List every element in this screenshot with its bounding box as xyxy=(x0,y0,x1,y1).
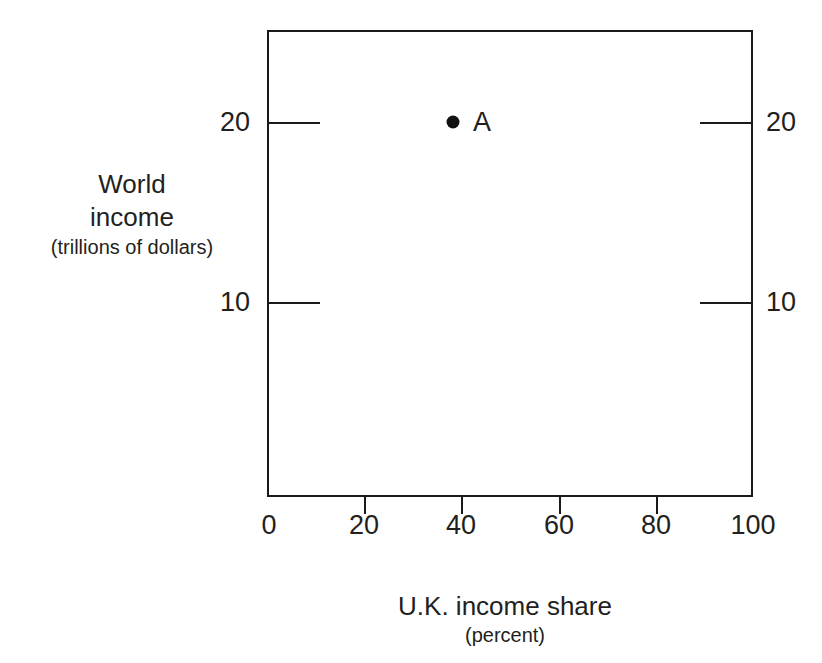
x-tick-label-100: 100 xyxy=(730,512,775,539)
data-point-a-label: A xyxy=(473,109,491,136)
y-tick-mark-left-10 xyxy=(267,302,320,304)
y-tick-label-left-10: 10 xyxy=(172,289,250,316)
chart-figure: 20 10 20 10 0 20 40 60 80 100 World inco… xyxy=(0,0,822,663)
y-axis-title-line1: World xyxy=(14,168,250,201)
x-axis-title: U.K. income share (percent) xyxy=(330,590,680,649)
plot-area-frame xyxy=(267,30,753,497)
y-tick-label-right-20: 20 xyxy=(766,109,822,136)
y-axis-title-line2: income xyxy=(14,201,250,234)
x-axis-title-main: U.K. income share xyxy=(330,590,680,623)
y-tick-label-right-10: 10 xyxy=(766,289,822,316)
x-tick-label-40: 40 xyxy=(446,512,476,539)
data-point-a xyxy=(447,116,460,129)
y-axis-title-units: (trillions of dollars) xyxy=(14,235,250,261)
x-tick-label-20: 20 xyxy=(349,512,379,539)
x-axis-title-units: (percent) xyxy=(330,623,680,649)
y-tick-mark-right-20 xyxy=(700,122,753,124)
y-axis-title: World income (trillions of dollars) xyxy=(14,168,250,260)
x-tick-label-0: 0 xyxy=(261,512,276,539)
y-tick-mark-left-20 xyxy=(267,122,320,124)
x-tick-label-60: 60 xyxy=(544,512,574,539)
x-tick-label-80: 80 xyxy=(641,512,671,539)
y-tick-mark-right-10 xyxy=(700,302,753,304)
y-tick-label-left-20: 20 xyxy=(172,109,250,136)
